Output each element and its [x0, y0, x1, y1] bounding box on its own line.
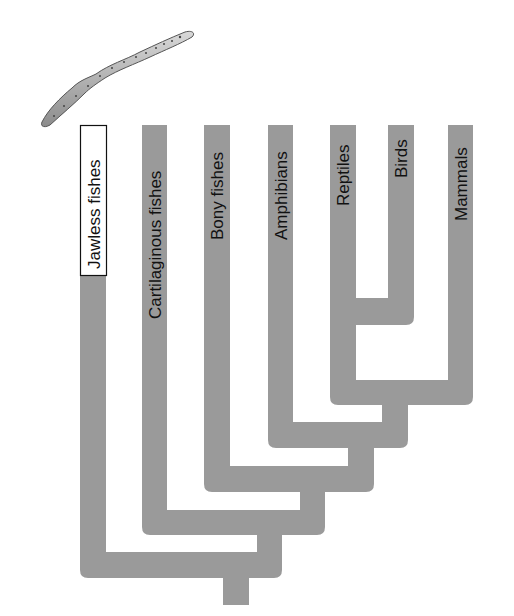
- taxon-label: Amphibians: [272, 151, 291, 240]
- taxon-label: Birds: [392, 139, 411, 178]
- taxon-label: Jawless fishes: [85, 159, 104, 269]
- taxon-label: Mammals: [452, 147, 471, 221]
- taxon-label: Reptiles: [334, 145, 353, 206]
- taxon-label: Bony fishes: [208, 152, 227, 240]
- taxon-label: Cartilaginous fishes: [146, 171, 165, 319]
- lamprey-illustration: [42, 31, 194, 126]
- cladogram: Jawless fishes Cartilaginous fishes Bony…: [0, 0, 514, 616]
